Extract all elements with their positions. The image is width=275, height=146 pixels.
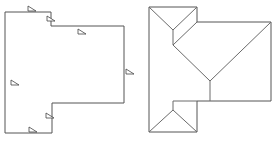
pitch-marker-icon [28,6,36,11]
roof-line [173,110,197,132]
pitch-marker-icon [46,113,54,118]
roof-line [149,110,173,132]
roof-outline [149,7,271,132]
pitch-marker-icon [11,80,19,85]
roof-line [173,7,197,30]
roof-plan [149,7,271,132]
roof-line [210,22,271,81]
pitch-marker-icon [29,127,37,132]
roof-line [149,7,173,30]
pitch-marker-icon [78,29,86,34]
pitch-marker-icon [126,69,134,74]
footprint-plan [5,6,134,133]
roof-plan-diagram [0,0,275,146]
pitch-markers [11,6,134,132]
footprint-outline [5,12,124,133]
roof-hip-ridge-lines [149,7,271,132]
roof-line [173,45,210,81]
roof-line [173,22,197,45]
